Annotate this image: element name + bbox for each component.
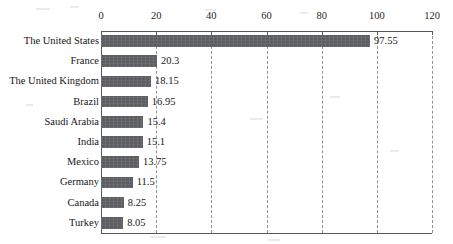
bar (101, 177, 133, 189)
category-label: The United Kingdom (0, 74, 99, 87)
category-label: Turkey (0, 216, 99, 229)
bar-value-label: 16.95 (152, 95, 176, 108)
category-label: Canada (0, 196, 99, 209)
bar-row: Turkey8.05 (101, 213, 432, 233)
bar-row: Brazil16.95 (101, 92, 432, 112)
gridline-120 (432, 31, 433, 233)
category-label: India (0, 135, 99, 148)
x-tick-label-0: 0 (98, 11, 103, 21)
bar-value-label: 97.55 (374, 34, 398, 47)
axis-bottom-line (101, 233, 432, 234)
bar (101, 96, 148, 108)
x-tick-label-60: 60 (261, 11, 272, 21)
bar-row: Germany11.5 (101, 172, 432, 192)
bar-row: India15.1 (101, 132, 432, 152)
bar-value-label: 20.3 (161, 54, 179, 67)
bar-row: Mexico13.75 (101, 152, 432, 172)
plot-area: The United States97.55France20.3The Unit… (101, 31, 432, 233)
x-tick-label-120: 120 (424, 11, 440, 21)
bar-row: Saudi Arabia15.4 (101, 112, 432, 132)
x-tick-label-40: 40 (206, 11, 217, 21)
category-label: Brazil (0, 95, 99, 108)
category-label: Germany (0, 175, 99, 188)
bar (101, 55, 157, 67)
bar-value-label: 15.4 (147, 115, 165, 128)
bar (101, 76, 151, 88)
x-tick-label-80: 80 (316, 11, 327, 21)
bar (101, 35, 370, 47)
bar (101, 156, 139, 168)
bar-row: The United States97.55 (101, 31, 432, 51)
bar-value-label: 11.5 (137, 175, 155, 188)
bar-chart: The United States97.55France20.3The Unit… (0, 0, 453, 244)
bar-row: France20.3 (101, 51, 432, 71)
bar-value-label: 8.05 (127, 216, 145, 229)
bar-value-label: 8.25 (128, 196, 146, 209)
bar (101, 116, 143, 128)
x-tick-label-20: 20 (151, 11, 162, 21)
x-tick-label-100: 100 (369, 11, 385, 21)
bar-row: Canada8.25 (101, 193, 432, 213)
category-label: Mexico (0, 155, 99, 168)
category-label: France (0, 54, 99, 67)
bar-value-label: 13.75 (143, 155, 167, 168)
bar (101, 197, 124, 209)
category-label: Saudi Arabia (0, 115, 99, 128)
bar-value-label: 15.1 (147, 135, 165, 148)
bar-value-label: 18.15 (155, 74, 179, 87)
tick-mark-120 (432, 31, 433, 35)
bar (101, 217, 123, 229)
bar-row: The United Kingdom18.15 (101, 71, 432, 91)
bar (101, 136, 143, 148)
category-label: The United States (0, 34, 99, 47)
